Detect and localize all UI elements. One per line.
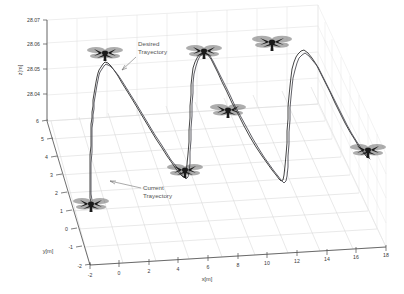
- x-tick-label: 12: [294, 258, 300, 264]
- grid-right-wall: [318, 5, 386, 247]
- x-tick-label: 6: [207, 264, 210, 270]
- y-axis: [42, 120, 91, 265]
- z-tick-labels: 28.07 28.06 28.05 28.04: [27, 17, 40, 97]
- y-tick-label: 5: [41, 136, 44, 142]
- x-tick-label: 2: [148, 268, 151, 274]
- x-tick-label: 10: [264, 260, 270, 266]
- y-tick-label: 3: [50, 172, 53, 178]
- y-tick-label: 0: [65, 226, 68, 232]
- quadcopter-marker-group: [73, 36, 386, 212]
- plot-canvas: 28.07 28.06 28.05 28.04 6 5 4 3 2 1 0 -1…: [0, 0, 404, 294]
- trajectory-current: [91, 53, 370, 200]
- x-axis-label: x[m]: [202, 276, 213, 282]
- y-tick-label: 2: [55, 190, 58, 196]
- z-axis: [43, 20, 47, 121]
- z-tick-label: 28.06: [27, 41, 40, 47]
- grid-back-wall: [47, 5, 318, 121]
- current-trajectory-annotation: Current Trayectory: [110, 181, 173, 199]
- x-tick-label: 16: [353, 254, 359, 260]
- x-tick-label: 4: [177, 266, 180, 272]
- desired-trajectory-label-line2: Trayectory: [138, 48, 168, 55]
- x-tick-label: 8: [237, 262, 240, 268]
- desired-trajectory-label-line1: Desired: [138, 40, 160, 47]
- z-axis-label: z[m]: [17, 64, 23, 75]
- y-tick-labels: 6 5 4 3 2 1 0 -1 -2: [36, 118, 82, 269]
- x-tick-label: 18: [383, 252, 389, 258]
- current-trajectory-label-line1: Current: [143, 184, 164, 191]
- y-tick-label: -1: [68, 244, 73, 250]
- desired-trajectory-annotation: Desired Trayectory: [122, 40, 168, 70]
- current-trajectory-label-line2: Trayectory: [143, 192, 173, 199]
- z-tick-label: 28.07: [27, 17, 40, 23]
- z-tick-label: 28.04: [27, 91, 40, 97]
- z-tick-label: 28.05: [27, 66, 40, 72]
- y-tick-label: 1: [60, 208, 63, 214]
- trajectory-3d-figure: 28.07 28.06 28.05 28.04 6 5 4 3 2 1 0 -1…: [0, 0, 404, 294]
- y-axis-label: y[m]: [43, 248, 54, 254]
- x-tick-label: 0: [118, 270, 121, 276]
- y-tick-label: 4: [45, 154, 48, 160]
- x-tick-label: -2: [88, 272, 93, 278]
- trajectory-desired: [90, 50, 368, 202]
- y-tick-label: 6: [36, 118, 39, 124]
- y-tick-label: -2: [77, 263, 82, 269]
- x-tick-label: 14: [324, 256, 330, 262]
